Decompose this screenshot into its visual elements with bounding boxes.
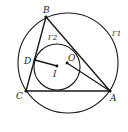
geometry-diagram: B C A D I O Γ2 Γ1 [0, 0, 128, 132]
label-gamma2: Γ2 [47, 34, 58, 42]
side-ab [46, 17, 110, 91]
segment-di [35, 60, 57, 66]
label-b: B [42, 5, 50, 15]
point-c [24, 89, 27, 92]
label-gamma1: Γ1 [111, 30, 121, 38]
point-i [56, 65, 59, 68]
label-o: O [68, 53, 76, 63]
point-d [34, 59, 37, 62]
point-b [44, 15, 47, 18]
side-bc [26, 17, 46, 91]
label-c: C [16, 91, 23, 101]
label-a: A [109, 93, 117, 103]
label-i: I [52, 69, 57, 79]
label-d: D [23, 56, 31, 66]
